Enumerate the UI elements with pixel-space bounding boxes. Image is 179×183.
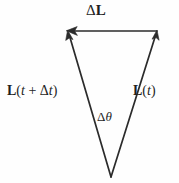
L-vector-glyph: L — [133, 83, 142, 98]
close-paren: ) — [151, 83, 156, 98]
vector-L-t-plus-delta-t — [66, 30, 111, 177]
vector-L-t — [111, 30, 159, 177]
vector-diagram-figure: ΔL L(t + Δt) L(t) Δθ — [0, 0, 179, 183]
delta-glyph: Δ — [40, 83, 49, 98]
L-vector-glyph: L — [7, 83, 16, 98]
delta-theta-label: Δθ — [97, 110, 112, 123]
L-vector-glyph: L — [96, 2, 106, 18]
vector-delta-L — [66, 27, 157, 36]
theta-glyph: θ — [105, 109, 111, 124]
L-t-label: L(t) — [133, 84, 156, 98]
delta-L-label: ΔL — [86, 3, 106, 18]
plus-sign: + — [25, 83, 40, 98]
L-t-plus-delta-t-label: L(t + Δt) — [7, 84, 57, 98]
delta-glyph: Δ — [86, 2, 96, 18]
close-paren: ) — [53, 83, 58, 98]
